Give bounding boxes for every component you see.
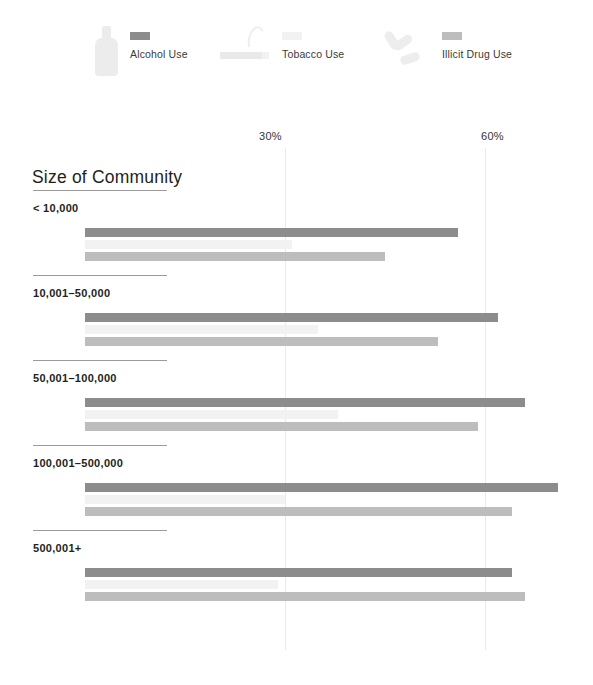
legend-drug-text-block: Illicit Drug Use [442, 24, 512, 60]
group-heading: 100,001–500,000 [33, 457, 123, 469]
bar-alcohol-use [85, 228, 458, 237]
bar-illicit-drug-use [85, 592, 525, 601]
legend-swatch-illicit-drug [442, 32, 462, 40]
bar-tobacco-use [85, 240, 292, 249]
axis-tick-label-60: 60% [481, 130, 504, 142]
bar-illicit-drug-use [85, 337, 438, 346]
bar-tobacco-use [85, 410, 338, 419]
bar-alcohol-use [85, 568, 512, 577]
group-heading: < 10,000 [33, 202, 79, 214]
pill-shape-3 [399, 51, 421, 66]
group-heading: 10,001–50,000 [33, 287, 110, 299]
legend-alcohol-text-block: Alcohol Use [130, 24, 188, 60]
group-divider [33, 530, 167, 531]
bar-illicit-drug-use [85, 252, 385, 261]
bottle-body-shape [95, 38, 118, 76]
bottle-icon [84, 24, 130, 76]
group-divider [33, 190, 167, 191]
group-heading: 500,001+ [33, 542, 82, 554]
group-divider [33, 445, 167, 446]
group-heading: 50,001–100,000 [33, 372, 117, 384]
axis-tick-label-30: 30% [259, 130, 282, 142]
bar-illicit-drug-use [85, 507, 512, 516]
legend-item-tobacco-use: Tobacco Use [222, 24, 344, 76]
bar-tobacco-use [85, 495, 285, 504]
legend-tobacco-text-block: Tobacco Use [282, 24, 344, 60]
bar-alcohol-use [85, 483, 558, 492]
legend-item-alcohol-use: Alcohol Use [84, 24, 188, 76]
chart-title: Size of Community [32, 167, 182, 188]
legend-label-alcohol: Alcohol Use [130, 48, 188, 60]
group-divider [33, 360, 167, 361]
bar-tobacco-use [85, 325, 318, 334]
pill-shape-2 [392, 33, 413, 52]
cigarette-icon [222, 24, 282, 76]
pills-icon [380, 24, 442, 76]
bar-alcohol-use [85, 398, 525, 407]
bar-alcohol-use [85, 313, 498, 322]
chart-legend: Alcohol Use Tobacco Use Illicit Drug Use [0, 24, 593, 94]
bar-illicit-drug-use [85, 422, 478, 431]
legend-swatch-tobacco [282, 32, 302, 40]
legend-swatch-alcohol [130, 32, 150, 40]
legend-label-tobacco: Tobacco Use [282, 48, 344, 60]
legend-label-illicit-drug: Illicit Drug Use [442, 48, 512, 60]
bar-tobacco-use [85, 580, 278, 589]
cigarette-tip-shape [262, 52, 269, 59]
cigarette-stick-shape [220, 52, 264, 59]
cigarette-smoke-shape [245, 24, 267, 53]
group-divider [33, 275, 167, 276]
legend-item-illicit-drug-use: Illicit Drug Use [380, 24, 512, 76]
